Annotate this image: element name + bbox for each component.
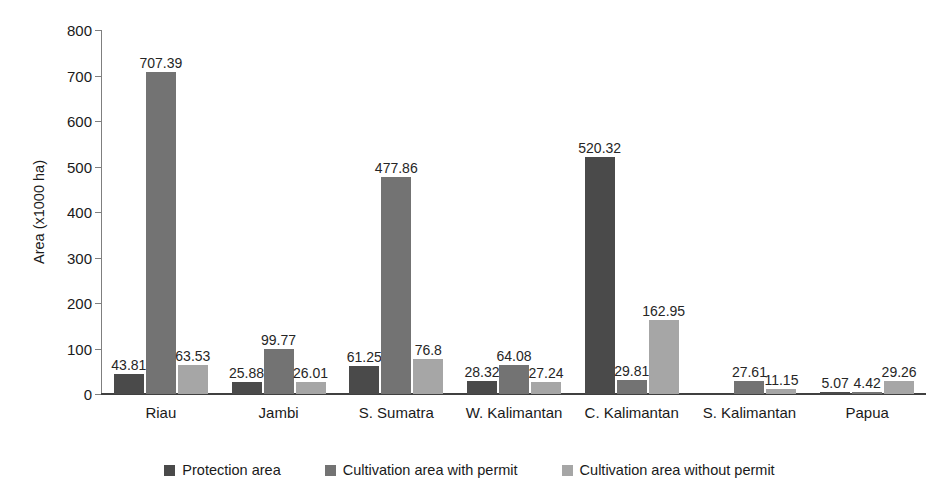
bar: 29.26 (884, 381, 914, 394)
bar: 27.24 (531, 382, 561, 394)
y-axis-tick-labels: 0100200300400500600700800 (40, 0, 92, 494)
legend-label: Cultivation area without permit (580, 463, 775, 478)
bar-value-label: 4.42 (854, 376, 881, 390)
y-tick-label: 600 (44, 114, 92, 129)
bar-value-label: 76.8 (415, 343, 442, 357)
bar: 64.08 (499, 365, 529, 394)
bar: 76.8 (413, 359, 443, 394)
bar-value-label: 26.01 (293, 366, 328, 380)
chart-legend: Protection areaCultivation area with per… (0, 455, 939, 485)
bar-value-label: 477.86 (375, 161, 418, 175)
bar-value-label: 27.61 (732, 365, 767, 379)
bar-group: 25.8899.7726.01 (232, 30, 326, 394)
bar: 63.53 (178, 365, 208, 394)
bar-value-label: 63.53 (175, 349, 210, 363)
bar-value-label: 43.81 (111, 358, 146, 372)
bar-value-label: 11.15 (764, 373, 798, 387)
legend-item[interactable]: Cultivation area without permit (562, 463, 775, 478)
y-tick-label: 0 (44, 387, 92, 402)
bar-value-label: 707.39 (139, 56, 182, 70)
y-tick-label: 800 (44, 23, 92, 38)
bar-value-label: 520.32 (578, 141, 621, 155)
bar: 11.15 (766, 389, 796, 394)
y-tick-label: 200 (44, 296, 92, 311)
bar-value-label: 25.88 (229, 366, 264, 380)
bar-group: 61.25477.8676.8 (349, 30, 443, 394)
bar: 27.61 (734, 381, 764, 394)
legend-label: Protection area (182, 463, 280, 478)
bar: 477.86 (381, 177, 411, 394)
bar-value-label: 61.25 (347, 350, 382, 364)
x-axis-category-labels: RiauJambiS. SumatraW. KalimantanC. Kalim… (102, 400, 926, 428)
legend-item[interactable]: Cultivation area with permit (325, 463, 518, 478)
bar: 4.42 (852, 392, 882, 394)
bar: 43.81 (114, 374, 144, 394)
bar-value-label: 162.95 (642, 304, 685, 318)
bar-group: 27.6111.15 (702, 30, 796, 394)
bar: 520.32 (585, 157, 615, 394)
x-axis-label: S. Sumatra (359, 400, 434, 426)
y-tick-label: 400 (44, 205, 92, 220)
bar-value-label: 99.77 (261, 333, 296, 347)
bar-group: 520.3229.81162.95 (585, 30, 679, 394)
bar: 162.95 (649, 320, 679, 394)
bar-value-label: 28.32 (464, 365, 499, 379)
bar: 99.77 (264, 349, 294, 394)
x-axis-label: S. Kalimantan (703, 400, 796, 426)
bar: 29.81 (617, 380, 647, 394)
bar-value-label: 27.24 (528, 366, 563, 380)
x-axis-label: Riau (145, 400, 176, 426)
y-tick-label: 100 (44, 342, 92, 357)
y-tick-label: 500 (44, 160, 92, 175)
x-axis-label: W. Kalimantan (466, 400, 563, 426)
x-axis-label: Papua (845, 400, 888, 426)
plot-area: 43.81707.3963.5325.8899.7726.0161.25477.… (102, 30, 926, 394)
y-tick-label: 700 (44, 69, 92, 84)
bar-group: 28.3264.0827.24 (467, 30, 561, 394)
bar-value-label: 64.08 (496, 349, 531, 363)
legend-swatch-icon (325, 465, 336, 476)
legend-label: Cultivation area with permit (343, 463, 518, 478)
bar-value-label: 5.07 (822, 376, 849, 390)
bar: 28.32 (467, 381, 497, 394)
bar: 25.88 (232, 382, 262, 394)
bar-value-label: 29.26 (882, 365, 917, 379)
bar-group: 43.81707.3963.53 (114, 30, 208, 394)
bar: 707.39 (146, 72, 176, 394)
bar-value-label: 29.81 (614, 364, 649, 378)
bar: 61.25 (349, 366, 379, 394)
bar-chart: Area (x1000 ha) 010020030040050060070080… (0, 0, 939, 494)
y-tick-label: 300 (44, 251, 92, 266)
bar: 26.01 (296, 382, 326, 394)
bar-group: 5.074.4229.26 (820, 30, 914, 394)
x-axis-label: Jambi (259, 400, 299, 426)
legend-swatch-icon (562, 465, 573, 476)
bar: 5.07 (820, 392, 850, 394)
legend-item[interactable]: Protection area (164, 463, 280, 478)
legend-swatch-icon (164, 465, 175, 476)
x-axis-label: C. Kalimantan (585, 400, 679, 426)
